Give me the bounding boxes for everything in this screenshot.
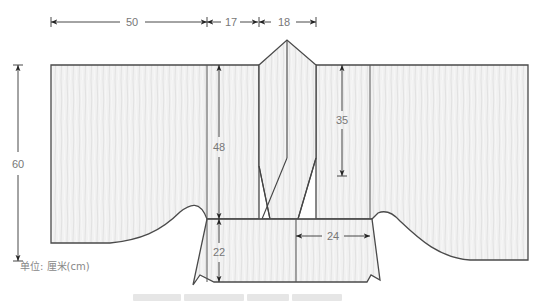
label-top-middle-width: 17 — [225, 16, 237, 28]
label-top-left-width: 50 — [126, 16, 138, 28]
garment-body — [51, 40, 528, 285]
label-total-height: 60 — [12, 158, 24, 170]
label-collar-drop: 35 — [336, 114, 348, 126]
label-top-collar-width: 18 — [278, 16, 290, 28]
illegible-caption — [133, 288, 373, 297]
left-body-panel — [51, 65, 259, 243]
unit-label: 单位: 厘米(cm) — [20, 258, 90, 273]
label-waistband-width: 24 — [327, 230, 339, 242]
label-front-height: 48 — [213, 141, 225, 153]
label-waistband-height: 22 — [213, 246, 225, 258]
